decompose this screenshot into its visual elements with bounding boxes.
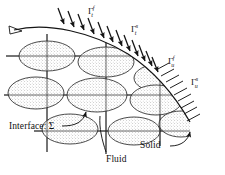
label-gamma-t-solid: Γst [131, 25, 137, 34]
traction-arrow [78, 14, 84, 30]
label-interface-sigma: Interface: Σ [9, 122, 55, 132]
domain-interior [4, 34, 204, 154]
hatch-mark [174, 88, 187, 95]
gamma-superscript: s [196, 76, 198, 82]
hatch-mark [170, 81, 183, 88]
label-gamma-u-fluid: Γfu [168, 57, 174, 66]
gamma-subscript: u [171, 62, 174, 68]
traction-arrow [98, 22, 104, 38]
hatch-mark [161, 69, 174, 76]
fluid-leader-line [100, 116, 106, 152]
diagram-canvas [0, 0, 225, 175]
label-fluid: Fluid [106, 155, 127, 165]
gamma-subscript: t [135, 30, 137, 36]
traction-arrow [116, 30, 122, 46]
traction-arrow [68, 11, 74, 27]
traction-arrow [146, 51, 152, 66]
solid-inclusion-ellipse [8, 77, 64, 109]
figure-root: Γft Γst Γfu Γsu Interface: Σ Fluid Solid [0, 0, 225, 175]
label-solid: Solid [140, 141, 161, 151]
label-gamma-t-fluid: Γft [88, 7, 93, 16]
hatch-mark [187, 114, 200, 121]
traction-arrow [132, 40, 138, 56]
label-gamma-u-solid: Γsu [191, 78, 198, 87]
traction-arrow [107, 26, 113, 42]
hatch-mark [166, 75, 179, 82]
gamma-subscript: t [91, 12, 93, 18]
traction-arrow [139, 45, 145, 61]
hatch-mark [184, 107, 197, 114]
solid-inclusion-ellipse [130, 85, 182, 115]
traction-arrow [58, 8, 64, 24]
hatch-mark [181, 101, 194, 108]
hatch-mark [178, 94, 191, 101]
gamma-subscript: u [195, 83, 198, 89]
traction-arrow [88, 18, 94, 34]
traction-arrow [124, 35, 130, 51]
gamma-superscript: s [136, 23, 138, 29]
solid-inclusion-ellipse [159, 111, 203, 137]
